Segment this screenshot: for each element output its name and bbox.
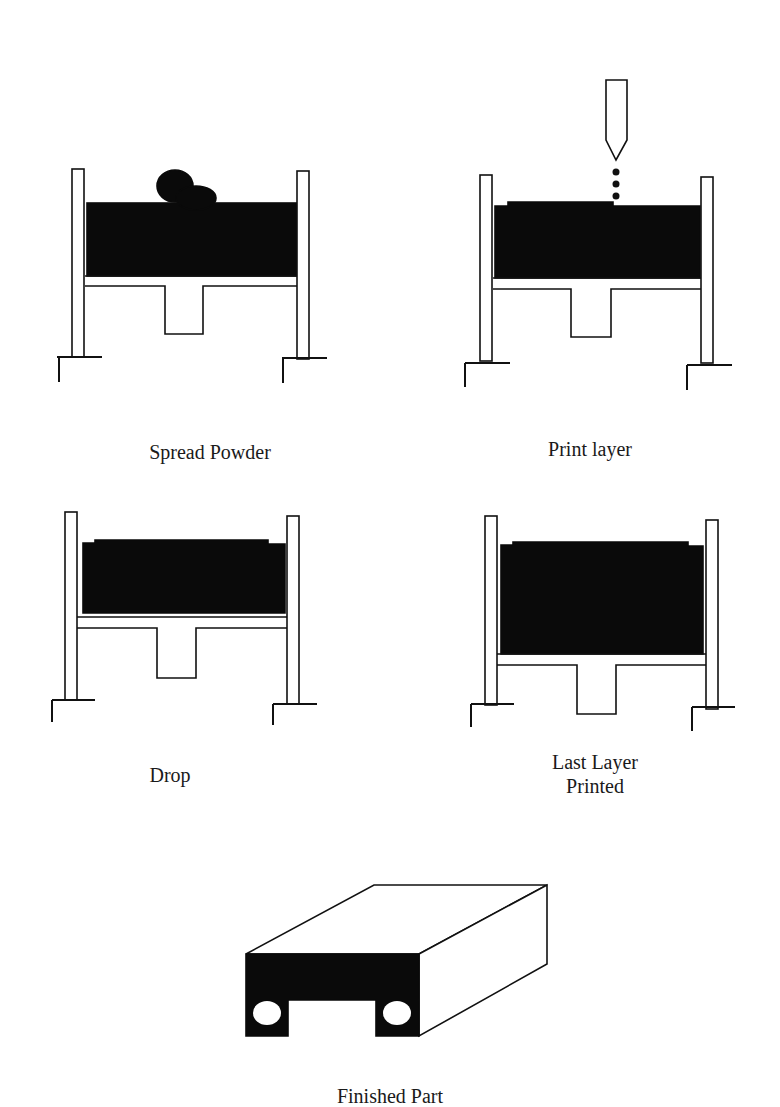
right-wall	[287, 516, 299, 704]
panel-last-layer-printed	[471, 516, 735, 731]
label-print-layer: Print layer	[500, 437, 680, 461]
powder-bed	[83, 540, 285, 613]
left-wall	[480, 175, 492, 361]
left-wall	[485, 516, 497, 705]
label-spread-powder: Spread Powder	[110, 440, 310, 464]
print-head-icon	[606, 80, 627, 160]
label-last-layer-printed-line1: Last Layer	[510, 750, 680, 774]
left-wall	[65, 512, 77, 700]
hole-right	[383, 1001, 411, 1025]
hole-left	[253, 1001, 281, 1025]
panel-finished-part	[246, 885, 547, 1036]
panel-drop	[52, 512, 317, 725]
build-platform	[85, 276, 297, 334]
panel-spread-powder	[57, 169, 327, 383]
panel-print-layer	[465, 80, 732, 390]
label-drop: Drop	[110, 763, 230, 787]
binder-droplet-icon	[613, 169, 620, 176]
left-wall	[72, 169, 84, 357]
label-last-layer-printed-line2: Printed	[510, 774, 680, 798]
powder-bed	[495, 202, 700, 278]
right-wall	[706, 520, 718, 709]
powder-bed	[501, 542, 703, 654]
powder-bed	[87, 203, 297, 276]
label-finished-part: Finished Part	[290, 1084, 490, 1107]
right-wall	[701, 177, 713, 363]
right-wall	[297, 171, 309, 359]
